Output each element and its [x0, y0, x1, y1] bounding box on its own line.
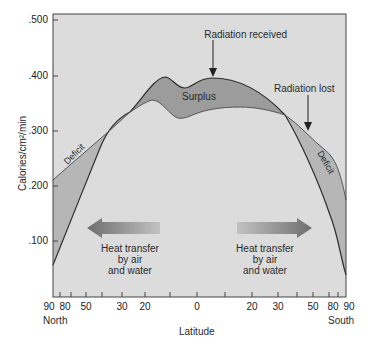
north-label: North	[43, 316, 67, 326]
x-axis-title: Latitude	[179, 327, 215, 337]
y-axis-title: Calories/cm²/min	[17, 104, 28, 204]
y-tick-label: .200	[29, 181, 48, 191]
x-tick-label: 50	[80, 302, 91, 312]
x-tick-label: 30	[272, 302, 283, 312]
y-tick-label: .400	[29, 71, 48, 81]
x-tick-label: 90	[343, 302, 354, 312]
x-tick-label: 20	[139, 302, 150, 312]
x-tick-label: 0	[194, 302, 200, 312]
radiation-lost-label: Radiation lost	[274, 84, 335, 94]
heat-transfer-label-south: Heat transfer by air and water	[233, 243, 297, 276]
x-tick-label: 80	[59, 302, 70, 312]
x-tick-label: 90	[43, 302, 54, 312]
y-tick-label: .100	[29, 236, 48, 246]
x-tick-label: 30	[116, 302, 127, 312]
south-label: South	[328, 316, 354, 326]
x-tick-label: 80	[327, 302, 338, 312]
surplus-label: Surplus	[182, 92, 216, 102]
x-tick-label: 20	[246, 302, 257, 312]
y-tick-label: .500	[29, 15, 48, 25]
y-tick-label: .300	[29, 126, 48, 136]
heat-transfer-label-north: Heat transfer by air and water	[98, 243, 162, 276]
radiation-received-label: Radiation received	[204, 30, 287, 40]
x-tick-label: 50	[307, 302, 318, 312]
chart-canvas	[0, 0, 368, 350]
